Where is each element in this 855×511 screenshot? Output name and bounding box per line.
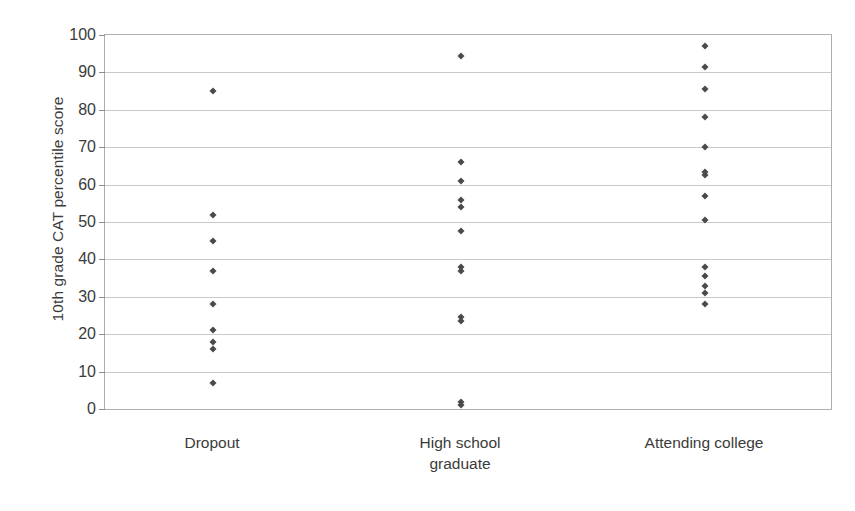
y-tick-label: 70: [78, 139, 96, 155]
data-point: [209, 267, 216, 274]
tick-mark: [99, 35, 105, 36]
data-point: [209, 346, 216, 353]
gridline: [105, 297, 831, 298]
tick-mark: [99, 222, 105, 223]
data-point: [457, 228, 464, 235]
category-label-line2: graduate: [420, 454, 501, 475]
data-point: [209, 379, 216, 386]
tick-mark: [99, 372, 105, 373]
gridline: [105, 147, 831, 148]
y-tick-label: 90: [78, 64, 96, 80]
data-point: [701, 144, 708, 151]
gridline: [105, 372, 831, 373]
category-label-2: Attending college: [645, 433, 764, 454]
data-point: [701, 114, 708, 121]
data-point: [701, 86, 708, 93]
gridline: [105, 185, 831, 186]
category-label-line1: Dropout: [184, 433, 239, 454]
category-label-line1: Attending college: [645, 433, 764, 454]
tick-mark: [99, 297, 105, 298]
scatter-plot-figure: 10th grade CAT percentile score 01020304…: [0, 0, 855, 511]
data-point: [209, 237, 216, 244]
data-point: [457, 318, 464, 325]
data-point: [457, 177, 464, 184]
data-point: [701, 63, 708, 70]
gridline: [105, 334, 831, 335]
gridline: [105, 222, 831, 223]
plot-area: 0102030405060708090100: [104, 34, 832, 410]
gridline: [105, 110, 831, 111]
tick-mark: [99, 409, 105, 410]
data-point: [701, 192, 708, 199]
tick-mark: [99, 185, 105, 186]
data-point: [457, 196, 464, 203]
data-point: [209, 327, 216, 334]
data-point: [701, 43, 708, 50]
data-point: [209, 211, 216, 218]
y-tick-label: 40: [78, 251, 96, 267]
data-point: [457, 159, 464, 166]
data-point: [701, 282, 708, 289]
y-tick-label: 10: [78, 364, 96, 380]
y-tick-label: 0: [87, 401, 96, 417]
category-label-line1: High school: [420, 433, 501, 454]
y-tick-label: 20: [78, 326, 96, 342]
category-label-0: Dropout: [184, 433, 239, 454]
tick-mark: [99, 72, 105, 73]
data-point: [701, 263, 708, 270]
data-point: [209, 338, 216, 345]
data-point: [701, 301, 708, 308]
data-point: [457, 52, 464, 59]
tick-mark: [99, 259, 105, 260]
y-tick-label: 60: [78, 177, 96, 193]
data-point: [209, 301, 216, 308]
gridline: [105, 72, 831, 73]
tick-mark: [99, 147, 105, 148]
y-tick-label: 30: [78, 289, 96, 305]
data-point: [701, 290, 708, 297]
y-tick-label: 80: [78, 102, 96, 118]
y-tick-label: 50: [78, 214, 96, 230]
gridline: [105, 259, 831, 260]
y-axis-title: 10th grade CAT percentile score: [49, 9, 67, 409]
tick-mark: [99, 334, 105, 335]
data-point: [457, 267, 464, 274]
y-tick-label: 100: [69, 27, 96, 43]
tick-mark: [99, 110, 105, 111]
data-point: [209, 88, 216, 95]
data-point: [701, 273, 708, 280]
category-label-1: High schoolgraduate: [420, 433, 501, 475]
data-point: [457, 203, 464, 210]
